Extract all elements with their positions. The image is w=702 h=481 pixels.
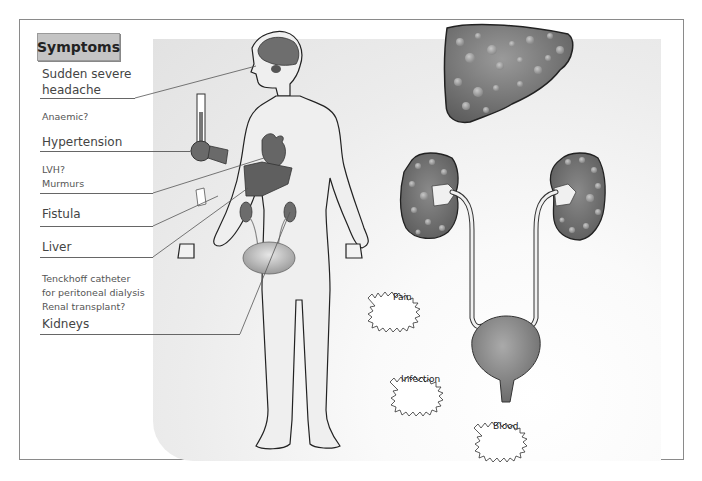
polycystic-kidney-right: [550, 153, 605, 240]
thermometer-icon: [191, 94, 228, 164]
illustration: Pain Infection Blood: [0, 0, 702, 481]
burst-pain-text: Pain: [393, 292, 412, 302]
polycystic-liver: [445, 25, 573, 123]
polycystic-kidney-left: [401, 153, 459, 238]
heart-icon: [262, 134, 285, 167]
burst-pain: Pain: [368, 292, 420, 332]
burst-blood-text: Blood: [493, 421, 518, 431]
peritoneal-cavity: [243, 242, 295, 274]
bladder-icon: [472, 316, 540, 402]
human-figure: [178, 32, 368, 449]
fistula-icon: [196, 188, 206, 206]
burst-infection-text: Infection: [401, 374, 440, 384]
burst-blood: Blood: [474, 421, 527, 462]
burst-infection: Infection: [390, 374, 443, 416]
